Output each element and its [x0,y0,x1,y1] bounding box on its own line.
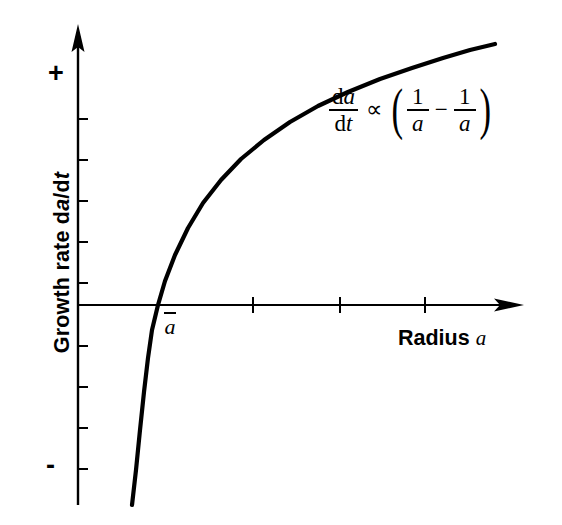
term2-numerator: 1 [456,84,474,109]
lhs-den-d: d [335,111,347,136]
term1-numerator: 1 [409,84,427,109]
x-axis-title-words: Radius [398,326,476,350]
term1-abar: a [411,112,424,135]
lhs-derivative-fraction: da dt [329,84,358,136]
equation-annotation: da dt ∝ ( 1 a − 1 a ) [328,84,493,136]
y-axis-title-d2: d [50,179,74,192]
x-axis-title-a: a [476,326,487,350]
one-over-abar-fraction: 1 a [407,84,429,136]
lhs-denominator: dt [332,111,356,136]
equilibrium-radius-label: a [164,314,176,340]
plot-canvas [0,0,562,525]
term1-denominator: a [408,111,427,136]
x-axis-title: Radius a [398,326,486,351]
term2-denominator: a [456,111,474,136]
lhs-num-d: d [332,84,344,109]
growth-rate-figure: + - Growth rate da/dt Radius a a da dt ∝… [0,0,562,525]
y-axis-positive-sign: + [48,60,64,87]
y-axis-title-slash: / [50,193,74,199]
lhs-numerator: da [329,84,358,109]
close-paren: ) [479,88,491,132]
one-over-a-fraction: 1 a [454,84,476,136]
y-axis-title: Growth rate da/dt [50,113,75,413]
lhs-den-t: t [346,111,352,136]
y-axis-title-words: Growth rate [50,224,74,353]
y-axis-title-t: t [50,172,74,179]
abar-symbol: a [164,314,176,340]
lhs-num-a: a [344,84,356,109]
minus-operator: − [430,98,453,121]
y-axis-title-d1: d [50,211,74,224]
y-axis-ticks [78,119,88,469]
proportional-to-symbol: ∝ [359,98,389,121]
y-axis-title-a: a [50,199,74,211]
open-paren: ( [392,88,404,132]
parenthesized-expression: ( 1 a − 1 a ) [389,84,493,136]
y-axis-negative-sign: - [46,452,55,479]
